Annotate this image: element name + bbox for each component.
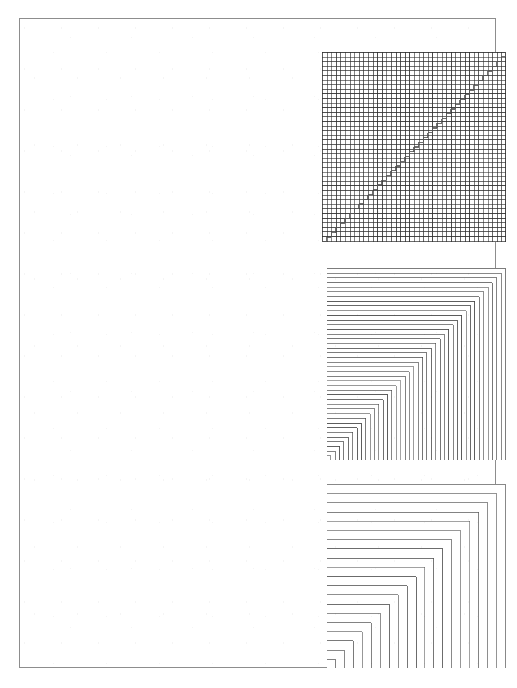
grid-pattern-dense-panel	[322, 52, 506, 242]
nested-l-pattern-dense-panel	[327, 268, 506, 460]
nested-l-pattern-sparse-panel	[327, 484, 506, 668]
figure-page	[0, 0, 517, 688]
page-border-frame	[19, 18, 496, 668]
